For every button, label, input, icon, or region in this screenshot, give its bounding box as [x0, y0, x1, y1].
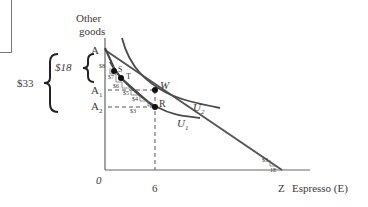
- step-label-7: $7: [108, 74, 114, 80]
- label-a1: A1: [91, 84, 102, 99]
- slope-label: $3: [262, 157, 268, 163]
- x-tick-6: 6: [152, 182, 158, 194]
- brace-inner: [83, 54, 94, 82]
- label-t: T: [126, 72, 131, 81]
- step-label-3: $3: [130, 108, 136, 114]
- label-z: Z: [278, 182, 285, 194]
- brace-inner-label: $18: [55, 61, 72, 73]
- y-axis-label-1: Other: [76, 12, 101, 24]
- point-t: [118, 75, 124, 81]
- step-label-5: $5: [123, 90, 129, 96]
- label-w: W: [160, 79, 169, 91]
- label-u2: U2: [193, 101, 204, 116]
- label-a: A: [91, 44, 99, 56]
- label-u1: U1: [177, 117, 188, 132]
- step-label-4: $4: [132, 96, 138, 102]
- step-label-6: $6: [113, 83, 119, 89]
- point-r: [152, 104, 158, 110]
- brace-outer-label: $33: [17, 77, 34, 89]
- origin-label: 0: [96, 174, 102, 186]
- step-label-8: $8: [99, 63, 105, 69]
- label-a2: A2: [91, 100, 102, 115]
- slope-unit: 1E: [270, 167, 277, 173]
- label-r: R: [159, 98, 166, 109]
- y-axis-label-2: goods: [79, 25, 105, 37]
- diagram-canvas: [0, 0, 368, 207]
- x-axis-label: Espresso (E): [292, 182, 348, 194]
- label-s: S: [118, 65, 122, 74]
- point-w: [152, 87, 158, 93]
